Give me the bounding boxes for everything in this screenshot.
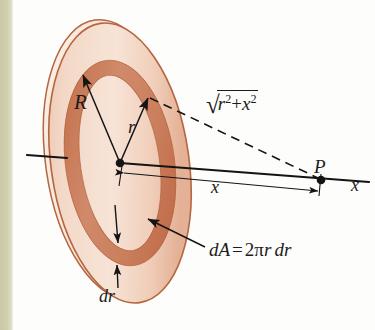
dA-r-symbol: r xyxy=(264,239,271,260)
pi-symbol: π xyxy=(254,239,264,260)
label-hypotenuse-expression: √r2+x2 xyxy=(206,90,258,119)
radicand-x-exponent: 2 xyxy=(250,92,256,106)
label-ring-radius-r: r xyxy=(128,117,135,136)
disk-center-dot xyxy=(116,159,125,168)
label-axis-x: x xyxy=(351,176,359,194)
dA-equals: = xyxy=(230,239,245,260)
dA-coefficient-two: 2 xyxy=(245,239,255,260)
label-outer-radius-R: R xyxy=(74,92,87,113)
dA-dr-symbol: dr xyxy=(275,239,292,260)
radicand-plus: + xyxy=(231,93,242,114)
label-distance-x: x xyxy=(211,178,219,196)
label-point-P: P xyxy=(314,157,326,176)
radicand: r2+x2 xyxy=(217,90,259,115)
label-ring-thickness-dr: dr xyxy=(99,287,115,305)
dA-symbol: dA xyxy=(209,239,230,260)
physics-figure-charged-disk: R r P x x dr dA=2πr dr √r2+x2 xyxy=(0,0,375,330)
dr-arrow-up xyxy=(117,265,118,288)
label-area-element-dA: dA=2πr dr xyxy=(209,240,291,259)
